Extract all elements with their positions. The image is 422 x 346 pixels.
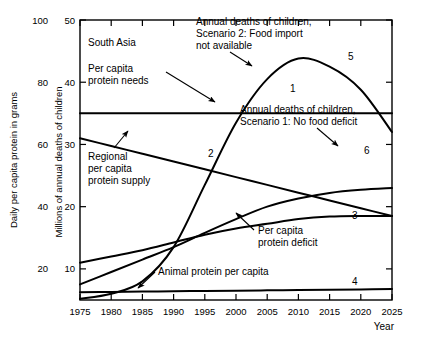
y-axis-title-right: Millions of annual deaths of children [53,86,64,237]
x-tick-label-2005: 2005 [257,306,278,317]
y-left-tick-label-60: 60 [37,139,48,150]
annotation-line: not available [196,40,253,51]
x-tick-label-2025: 2025 [381,306,402,317]
annotation-line: per capita [88,163,132,174]
y-left-tick-label-20: 20 [37,263,48,274]
x-tick-label-2015: 2015 [319,306,340,317]
annotation-per-capita-protein-needs: Per capitaprotein needs [88,63,149,86]
chart-figure: 1975198019851990199520002005201020152020… [0,0,422,346]
x-tick-label-1975: 1975 [69,306,90,317]
x-tick-label-1980: 1980 [101,306,122,317]
annotation-line: protein deficit [258,237,318,248]
y-left-tick-label-100: 100 [32,15,48,26]
x-tick-label-1985: 1985 [132,306,153,317]
annotation-line: Animal protein per capita [158,266,269,277]
leader-animal-protein [138,272,155,288]
leader-protein-needs [166,72,215,102]
y-right-tick-label-10: 10 [64,263,75,274]
curve-number-4: 4 [352,276,358,287]
annotation-line: Regional [88,151,127,162]
y-axis-title-left: Daily per capita protein in grams [8,92,19,228]
annotation-animal-protein-per-capita: Animal protein per capita [158,266,269,277]
y-right-tick-label-40: 40 [64,77,75,88]
x-tick-label-1995: 1995 [194,306,215,317]
curve-number-1: 1 [290,83,296,94]
chart-canvas: 1975198019851990199520002005201020152020… [0,0,422,346]
annotation-line: Scenario 1: No food deficit [240,116,358,127]
curve-number-6: 6 [364,145,370,156]
annotation-line: Annual deaths of children, [196,16,312,27]
x-tick-label-2010: 2010 [288,306,309,317]
y-right-tick-label-30: 30 [64,139,75,150]
curve-number-3: 3 [352,210,358,221]
curve-number-5: 5 [348,51,354,62]
y-right-tick-label-50: 50 [64,15,75,26]
annotation-per-capita-protein-deficit: Per capitaprotein deficit [258,225,318,248]
annotation-line: Scenario 2: Food import [196,28,303,39]
x-tick-label-2020: 2020 [350,306,371,317]
curve-number-2: 2 [208,148,214,159]
leader-scenario-2 [230,52,252,66]
x-tick-label-2000: 2000 [225,306,246,317]
y-right-tick-label-20: 20 [64,201,75,212]
annotation-line: Per capita [88,63,133,74]
x-axis-title: Year [374,321,395,332]
annotation-regional-per-capita-protein-supply: Regionalper capitaprotein supply [88,151,150,186]
leader-regional-supply [114,131,128,148]
annotation-line: protein supply [88,175,150,186]
annotation-line: protein needs [88,75,149,86]
annotation-annual-deaths-scenario-1: Annual deaths of children,Scenario 1: No… [240,104,358,127]
annotation-line: Annual deaths of children, [240,104,356,115]
region-label: South Asia [88,37,136,48]
x-tick-label-1990: 1990 [163,306,184,317]
series-line-3 [80,216,392,263]
annotation-annual-deaths-scenario-2: Annual deaths of children,Scenario 2: Fo… [196,16,312,51]
annotation-line: Per capita [258,225,303,236]
leader-scenario-1 [317,128,338,146]
y-left-tick-label-40: 40 [37,201,48,212]
y-left-tick-label-80: 80 [37,77,48,88]
